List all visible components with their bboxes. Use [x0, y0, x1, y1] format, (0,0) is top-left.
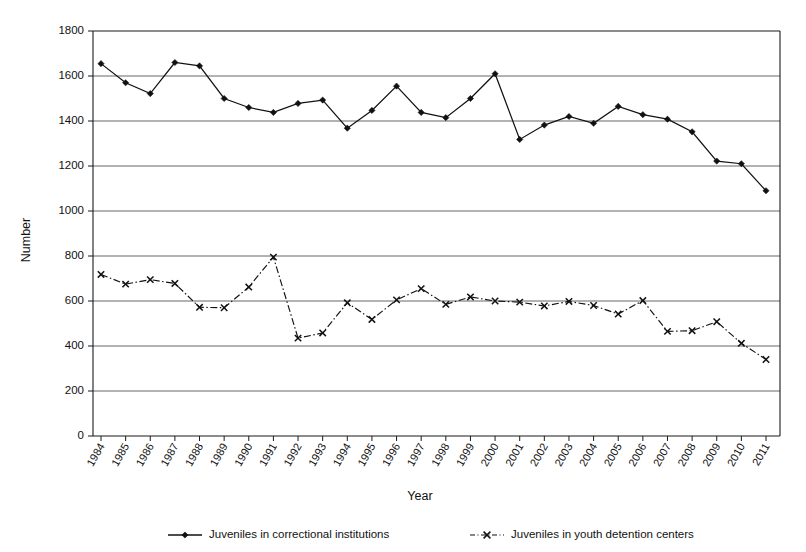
y-axis-tick-label: 0	[78, 429, 84, 441]
x-axis-tick-label: 2005	[601, 441, 624, 468]
x-axis-tick-label: 1993	[306, 441, 329, 468]
x-axis-tick-label: 1996	[380, 441, 403, 468]
y-axis-ticks-group	[88, 31, 93, 436]
chart-legend: Juveniles in correctional institutionsJu…	[168, 528, 694, 540]
diamond-marker-icon	[182, 532, 188, 538]
data-point-marker	[369, 316, 375, 322]
x-axis-tick-label: 1995	[355, 441, 378, 468]
x-axis-tick-label: 2002	[527, 441, 550, 468]
x-axis-tick-label: 2011	[750, 441, 772, 467]
x-axis-tick-label: 1991	[257, 441, 280, 468]
y-axis-tick-label: 1800	[58, 24, 84, 36]
data-point-marker	[615, 311, 621, 317]
y-axis-tick-label: 1000	[58, 204, 84, 216]
y-axis-title: Number	[19, 218, 33, 262]
x-axis-tick-label: 1984	[84, 441, 107, 468]
y-axis-tick-label: 200	[65, 384, 84, 396]
data-point-marker	[541, 122, 547, 128]
x-axis-ticks-group	[101, 436, 766, 441]
x-axis-tick-label: 2010	[724, 441, 747, 468]
x-axis-tick-label: 1992	[281, 441, 304, 468]
chart-figure: 020040060080010001200140016001800 198419…	[0, 0, 806, 552]
x-axis-tick-label: 1999	[454, 441, 477, 468]
legend-item-2[interactable]: Juveniles in youth detention centers	[470, 528, 694, 540]
x-axis-tick-label: 1989	[207, 441, 230, 468]
x-axis-tick-label: 1985	[109, 441, 132, 468]
legend-item-1[interactable]: Juveniles in correctional institutions	[168, 528, 390, 540]
y-axis-tick-label: 1400	[58, 114, 84, 126]
y-axis-tick-labels-group: 020040060080010001200140016001800	[58, 24, 84, 441]
data-point-marker	[393, 297, 399, 303]
data-point-marker	[763, 356, 769, 362]
x-axis-tick-label: 2009	[700, 441, 723, 468]
x-axis-tick-label: 2003	[552, 441, 575, 468]
x-axis-tick-label: 2008	[675, 441, 698, 468]
data-point-marker	[714, 319, 720, 325]
data-point-marker	[270, 109, 276, 115]
gridlines-group	[93, 76, 780, 391]
data-point-marker	[738, 340, 744, 346]
x-axis-tick-label: 1986	[133, 441, 156, 468]
data-point-marker	[566, 113, 572, 119]
data-point-marker	[295, 100, 301, 106]
x-axis-tick-labels-group: 1984198519861987198819891990199119921993…	[84, 441, 772, 468]
data-point-marker	[443, 301, 449, 307]
y-axis-tick-label: 1600	[58, 69, 84, 81]
x-axis-tick-label: 2004	[577, 441, 600, 468]
data-point-marker	[640, 112, 646, 118]
line-chart: 020040060080010001200140016001800 198419…	[0, 0, 806, 552]
x-axis-title: Year	[407, 489, 432, 503]
data-point-marker	[98, 271, 104, 277]
y-axis-tick-label: 1200	[58, 159, 84, 171]
series-1	[98, 59, 769, 193]
y-axis-tick-label: 800	[65, 249, 84, 261]
legend-label: Juveniles in correctional institutions	[209, 528, 390, 540]
y-axis-tick-label: 400	[65, 339, 84, 351]
data-point-marker	[147, 276, 153, 282]
x-axis-tick-label: 2000	[478, 441, 501, 468]
data-point-marker	[418, 285, 424, 291]
data-point-marker	[517, 136, 523, 142]
x-axis-tick-label: 1998	[429, 441, 452, 468]
series-line	[101, 63, 766, 191]
x-axis-tick-label: 1994	[330, 441, 353, 468]
data-point-marker	[246, 104, 252, 110]
legend-label: Juveniles in youth detention centers	[511, 528, 694, 540]
y-axis-tick-label: 600	[65, 294, 84, 306]
x-axis-tick-label: 1988	[183, 441, 206, 468]
x-axis-tick-label: 1990	[232, 441, 255, 468]
x-axis-tick-label: 2006	[626, 441, 649, 468]
x-axis-tick-label: 1997	[404, 441, 427, 468]
data-point-marker	[270, 254, 276, 260]
x-axis-tick-label: 2001	[503, 441, 526, 468]
x-axis-tick-label: 1987	[158, 441, 181, 468]
data-point-marker	[590, 302, 596, 308]
data-point-marker	[246, 284, 252, 290]
x-axis-tick-label: 2007	[651, 441, 674, 468]
data-point-marker	[221, 305, 227, 311]
